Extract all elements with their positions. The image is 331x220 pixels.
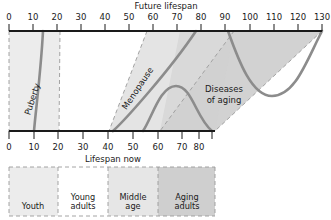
bottom-tick-70: 70 [177,142,188,152]
stage-label-middle-age-line2: age [125,201,140,211]
bottom-tick-10: 10 [29,142,40,152]
top-tick-10: 10 [28,12,39,22]
top-tick-80: 80 [196,12,207,22]
top-axis: 0 10 20 30 40 50 60 70 80 90 100 110 120… [6,1,330,31]
bottom-tick-40: 40 [103,142,114,152]
top-tick-130: 130 [314,12,330,22]
bottom-tick-50: 50 [128,142,139,152]
stage-label-youth: Youth [21,201,45,211]
top-tick-20: 20 [52,12,63,22]
bottom-tick-30: 30 [78,142,89,152]
annotation-diseases-of-aging-line2: of aging [207,95,242,105]
top-axis-title: Future lifespan [134,1,197,11]
bottom-tick-20: 20 [53,142,64,152]
top-axis-ticks [9,24,322,31]
life-stage-bands: Youth Young adults Middle age Aging adul… [9,167,215,216]
top-tick-50: 50 [124,12,135,22]
bottom-axis: 0 10 20 30 40 50 60 70 80 Lifespan now [6,131,215,164]
top-tick-70: 70 [172,12,183,22]
future-lifespan-diagram: 0 10 20 30 40 50 60 70 80 90 100 110 120… [0,0,331,220]
top-tick-60: 60 [148,12,159,22]
top-tick-120: 120 [290,12,306,22]
annotation-diseases-of-aging-line1: Diseases [205,84,243,94]
stage-label-aging-adults-line2: adults [174,201,199,211]
upper-shaded-bands [9,31,322,131]
top-tick-0: 0 [6,12,11,22]
bottom-axis-ticks [9,131,212,139]
stage-label-young-adults-line2: adults [70,201,95,211]
bottom-axis-tick-labels: 0 10 20 30 40 50 60 70 80 [6,142,204,152]
top-tick-110: 110 [266,12,282,22]
bottom-tick-0: 0 [6,142,11,152]
top-tick-90: 90 [220,12,231,22]
top-tick-30: 30 [76,12,87,22]
top-tick-100: 100 [242,12,258,22]
top-tick-40: 40 [100,12,111,22]
bottom-tick-80: 80 [194,142,205,152]
bottom-axis-title: Lifespan now [85,154,141,164]
top-axis-tick-labels: 0 10 20 30 40 50 60 70 80 90 100 110 120… [6,12,330,22]
diagram-canvas: 0 10 20 30 40 50 60 70 80 90 100 110 120… [0,0,331,220]
bottom-tick-60: 60 [153,142,164,152]
